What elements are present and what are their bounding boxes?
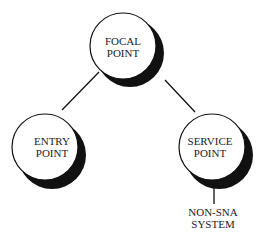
- network-diagram: FOCAL POINT ENTRY POINT SERVICE POINT NO…: [0, 0, 259, 238]
- node-entry-point: ENTRY POINT: [12, 114, 86, 189]
- node-focal-point: FOCAL POINT: [90, 13, 164, 87]
- node-label-line1: ENTRY: [34, 135, 70, 147]
- node-label-line1: SERVICE: [188, 135, 233, 147]
- edge-focal-service: [165, 80, 195, 112]
- external-label-line2: SYSTEM: [191, 218, 235, 230]
- external-label-line1: NON-SNA: [188, 206, 238, 218]
- external-non-sna-system: NON-SNA SYSTEM: [188, 206, 238, 230]
- node-label-line2: POINT: [194, 147, 227, 159]
- node-label-line1: FOCAL: [105, 35, 141, 47]
- node-service-point: SERVICE POINT: [179, 114, 253, 189]
- node-label-line2: POINT: [107, 47, 140, 59]
- edge-focal-entry: [62, 72, 99, 110]
- node-label-line2: POINT: [36, 147, 69, 159]
